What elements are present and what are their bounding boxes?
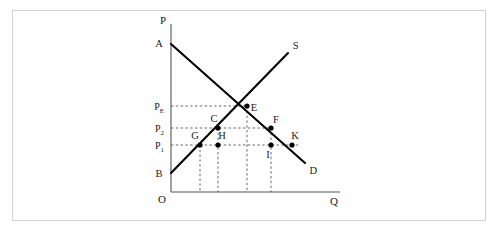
point-a-label: A — [155, 38, 163, 49]
supply-curve-label: S — [293, 40, 299, 51]
point-k-dot — [289, 142, 294, 147]
point-h-dot — [215, 142, 220, 147]
point-f-label: F — [273, 114, 279, 125]
point-h-label: H — [218, 130, 226, 141]
point-f-dot — [268, 125, 273, 130]
price-one-axis-label: P1 — [155, 140, 165, 154]
supply-curve — [171, 53, 288, 173]
point-k-label: K — [291, 130, 299, 141]
point-b-label: B — [155, 168, 162, 179]
supply-demand-chart: P Q O DSABECFGHIK PEP2P1 — [0, 0, 499, 232]
point-i-dot — [268, 142, 273, 147]
curves-group — [171, 44, 305, 173]
price-labels-group: PEP2P1 — [154, 101, 164, 154]
origin-label: O — [158, 193, 166, 205]
figure-root: P Q O DSABECFGHIK PEP2P1 — [0, 0, 499, 232]
vertical-axis-label: P — [160, 14, 166, 26]
demand-curve-label: D — [309, 165, 317, 176]
point-e-label: E — [251, 102, 257, 113]
equilibrium-price-axis-label: PE — [154, 101, 164, 115]
point-g-dot — [197, 142, 202, 147]
guide-lines-group — [171, 106, 300, 192]
price-two-axis-label: P2 — [155, 123, 165, 137]
point-i-label: I — [266, 149, 270, 160]
point-g-label: G — [191, 130, 199, 141]
point-e-dot — [244, 103, 249, 108]
point-c-label: C — [210, 113, 217, 124]
horizontal-axis-label: Q — [330, 195, 338, 207]
